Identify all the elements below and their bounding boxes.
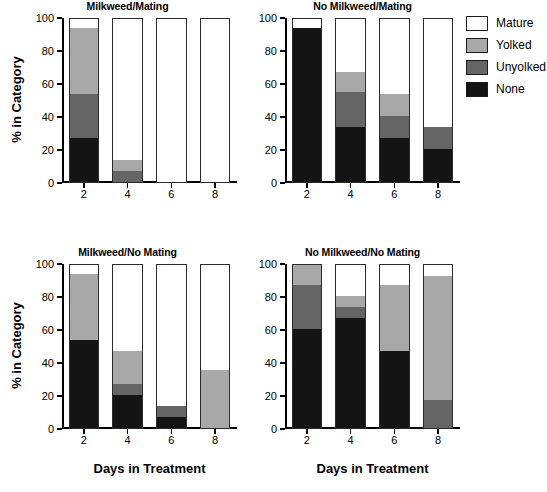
- y-tick: [57, 263, 62, 264]
- y-axis-line: [62, 18, 64, 183]
- x-tick-label: 6: [391, 434, 397, 446]
- stacked-bar[interactable]: [200, 264, 231, 429]
- stacked-bar[interactable]: [200, 18, 231, 183]
- bar-segment-mature: [336, 264, 365, 296]
- bar-segment-none: [157, 417, 186, 428]
- bar-segment-none: [70, 138, 99, 182]
- legend-swatch-icon: [466, 38, 488, 53]
- y-tick-label: 0: [48, 177, 54, 189]
- x-tick-label: 4: [125, 434, 131, 446]
- bar-segment-yolked: [336, 72, 365, 92]
- bar-segment-unyolked: [336, 92, 365, 127]
- y-tick: [280, 149, 285, 150]
- y-tick: [280, 263, 285, 264]
- x-tick-label: 2: [81, 188, 87, 200]
- stacked-bar[interactable]: [292, 264, 323, 429]
- bar-segment-yolked: [70, 28, 99, 94]
- x-tick-label: 4: [348, 434, 354, 446]
- bar-segment-mature: [70, 18, 99, 28]
- bar-segment-mature: [157, 264, 186, 406]
- bar-segment-mature: [113, 264, 142, 351]
- legend-swatch-icon: [466, 82, 488, 97]
- bar-segment-none: [293, 28, 322, 182]
- y-tick: [280, 428, 285, 429]
- y-tick-label: 80: [265, 291, 277, 303]
- x-tick-label: 2: [81, 434, 87, 446]
- y-tick: [280, 182, 285, 183]
- legend-item-unyolked[interactable]: Unyolked: [466, 58, 547, 80]
- bar-segment-mature: [380, 18, 409, 94]
- y-tick: [57, 50, 62, 51]
- stacked-bar[interactable]: [112, 264, 143, 429]
- bar-segment-unyolked: [380, 116, 409, 138]
- x-tick-label: 2: [304, 188, 310, 200]
- bar-segment-unyolked: [424, 127, 453, 149]
- y-tick-label: 0: [271, 177, 277, 189]
- stacked-bar[interactable]: [423, 264, 454, 429]
- y-tick-label: 80: [42, 45, 54, 57]
- y-tick: [57, 428, 62, 429]
- plot-area-no-milkweed-no-mating: 0204060801002468: [285, 264, 460, 429]
- panel-milkweed-no-mating: Milkweed/No Mating % in Category 0204060…: [0, 246, 255, 492]
- legend-label: Unyolked: [496, 58, 546, 77]
- bar-segment-none: [424, 149, 453, 182]
- y-tick-label: 80: [42, 291, 54, 303]
- plot-area-milkweed-mating: 0204060801002468: [62, 18, 237, 183]
- bar-segment-unyolked: [424, 400, 453, 428]
- bar-segment-mature: [380, 264, 409, 285]
- plot-area-no-milkweed-mating: 0204060801002468: [285, 18, 460, 183]
- legend-item-yolked[interactable]: Yolked: [466, 36, 547, 58]
- x-tick-label: 4: [125, 188, 131, 200]
- bar-segment-none: [113, 395, 142, 428]
- bar-segment-unyolked: [113, 171, 142, 182]
- y-tick: [57, 116, 62, 117]
- bar-segment-yolked: [336, 296, 365, 307]
- y-axis-title: % in Category: [9, 281, 24, 411]
- stacked-bar[interactable]: [379, 264, 410, 429]
- legend-label: None: [496, 80, 525, 99]
- bar-segment-yolked: [70, 274, 99, 340]
- y-tick: [57, 395, 62, 396]
- stacked-bar[interactable]: [69, 18, 100, 183]
- panel-no-milkweed-no-mating: No Milkweed/No Mating 0204060801002468 D…: [255, 246, 470, 492]
- y-tick: [280, 362, 285, 363]
- bar-segment-unyolked: [157, 406, 186, 417]
- y-tick-label: 100: [36, 12, 54, 24]
- bar-segment-mature: [424, 264, 453, 276]
- bar-segment-yolked: [424, 276, 453, 400]
- x-tick-label: 8: [435, 434, 441, 446]
- legend-label: Yolked: [496, 36, 532, 55]
- bar-segment-unyolked: [113, 384, 142, 395]
- stacked-bar-figure: Milkweed/Mating % in Category 0204060801…: [0, 0, 547, 492]
- y-tick: [57, 17, 62, 18]
- legend-item-mature[interactable]: Mature: [466, 14, 547, 36]
- y-axis-line: [285, 264, 287, 429]
- panel-milkweed-mating: Milkweed/Mating % in Category 0204060801…: [0, 0, 255, 215]
- y-tick: [57, 149, 62, 150]
- legend-item-none[interactable]: None: [466, 80, 547, 102]
- stacked-bar[interactable]: [423, 18, 454, 183]
- bar-segment-yolked: [201, 370, 230, 428]
- legend-label: Mature: [496, 14, 533, 33]
- stacked-bar[interactable]: [335, 264, 366, 429]
- y-tick-label: 40: [42, 357, 54, 369]
- stacked-bar[interactable]: [335, 18, 366, 183]
- stacked-bar[interactable]: [112, 18, 143, 183]
- bar-segment-mature: [293, 18, 322, 28]
- bar-segment-none: [336, 127, 365, 182]
- panel-title: No Milkweed/Mating: [255, 0, 470, 12]
- stacked-bar[interactable]: [156, 264, 187, 429]
- y-tick-label: 40: [265, 357, 277, 369]
- stacked-bar[interactable]: [292, 18, 323, 183]
- y-tick-label: 80: [265, 45, 277, 57]
- y-tick-label: 100: [259, 258, 277, 270]
- y-tick-label: 20: [42, 390, 54, 402]
- stacked-bar[interactable]: [379, 18, 410, 183]
- bar-segment-yolked: [380, 94, 409, 116]
- stacked-bar[interactable]: [69, 264, 100, 429]
- stacked-bar[interactable]: [156, 18, 187, 183]
- x-tick-label: 6: [168, 434, 174, 446]
- x-tick-label: 8: [435, 188, 441, 200]
- bar-segment-mature: [113, 18, 142, 160]
- bar-segment-mature: [201, 264, 230, 370]
